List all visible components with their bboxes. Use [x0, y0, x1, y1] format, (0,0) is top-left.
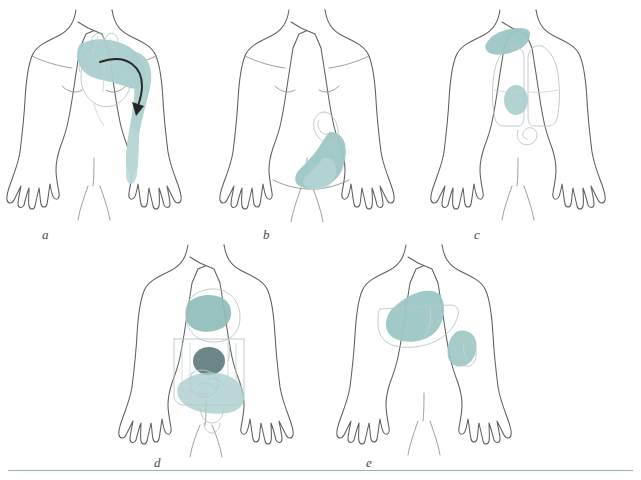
- panel-c-illustration: [424, 8, 639, 223]
- panel-c: c: [424, 8, 639, 223]
- panel-label-d: d: [154, 455, 161, 471]
- panel-d: d: [112, 243, 327, 458]
- panel-b: b: [213, 8, 428, 223]
- panel-b-illustration: [213, 8, 428, 223]
- panel-label-e: e: [366, 455, 372, 471]
- pain-region-b: [295, 132, 346, 190]
- panel-label-b: b: [263, 227, 270, 243]
- panel-label-c: c: [474, 227, 480, 243]
- panel-d-illustration: [112, 243, 327, 458]
- panel-a: a: [0, 8, 215, 223]
- torso-outline-e: [337, 245, 512, 455]
- referred-pain-figure: a: [0, 0, 641, 480]
- panel-label-a: a: [42, 227, 49, 243]
- figure-separator-rule: [8, 470, 633, 471]
- panel-e-illustration: [330, 243, 545, 458]
- torso-outline-b: [220, 10, 395, 222]
- panel-e: e: [330, 243, 545, 458]
- panel-a-illustration: [0, 8, 215, 223]
